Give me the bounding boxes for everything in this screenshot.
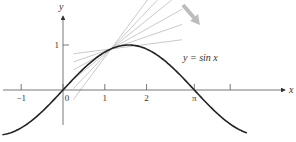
curve-label: y = sin x xyxy=(182,52,218,63)
secant-lines xyxy=(73,0,182,100)
svg-text:1: 1 xyxy=(103,93,108,103)
svg-text:−1: −1 xyxy=(16,93,26,103)
y-axis-label: y xyxy=(58,1,64,12)
sine-chart: −1012π 1 x y y = sin x xyxy=(0,0,296,142)
y-ticks: 1 xyxy=(55,40,70,50)
svg-text:0: 0 xyxy=(65,93,70,103)
gray-arrow-icon xyxy=(183,5,200,25)
svg-text:π: π xyxy=(192,93,197,103)
svg-text:2: 2 xyxy=(144,93,149,103)
x-axis-label: x xyxy=(288,84,294,95)
svg-text:1: 1 xyxy=(55,40,60,50)
